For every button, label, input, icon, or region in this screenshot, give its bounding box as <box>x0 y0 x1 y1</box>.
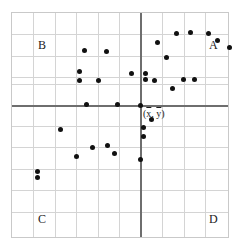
data-point <box>143 77 148 82</box>
gridline-vertical <box>33 13 34 237</box>
gridline-vertical <box>76 13 77 237</box>
data-point <box>174 31 179 36</box>
gridline-horizontal <box>12 126 228 127</box>
gridline-horizontal <box>12 56 228 57</box>
data-point <box>206 31 211 36</box>
scatter-plot-figure: ABCD (x, y) <box>0 0 239 249</box>
quadrant-label-c: C <box>38 213 46 225</box>
gridline-vertical <box>119 13 120 237</box>
gridline-vertical <box>184 13 185 237</box>
data-point <box>74 154 79 159</box>
centroid-close-paren: ) <box>161 108 164 119</box>
data-point <box>188 30 193 35</box>
horizontal-axis <box>12 105 228 107</box>
quadrant-label-a: A <box>209 39 218 51</box>
data-point <box>77 69 82 74</box>
data-point <box>104 49 109 54</box>
quadrant-label-d: D <box>209 213 218 225</box>
gridline-horizontal <box>12 34 228 35</box>
data-point <box>84 102 89 107</box>
data-point <box>227 45 232 50</box>
data-point <box>138 103 143 108</box>
data-point <box>141 134 146 139</box>
gridline-vertical <box>205 13 206 237</box>
data-point <box>112 151 117 156</box>
data-point <box>170 86 175 91</box>
data-point <box>129 71 134 76</box>
gridline-horizontal <box>12 190 228 191</box>
centroid-annotation: (x, y) <box>143 109 165 119</box>
gridline-horizontal <box>12 147 228 148</box>
data-point <box>141 125 146 130</box>
data-point <box>138 157 143 162</box>
data-point <box>35 175 40 180</box>
gridline-vertical <box>98 13 99 237</box>
data-point <box>181 77 186 82</box>
quadrant-label-b: B <box>38 39 46 51</box>
data-point <box>143 71 148 76</box>
data-point <box>192 77 197 82</box>
data-point <box>82 48 87 53</box>
data-point <box>77 78 82 83</box>
data-point <box>115 102 120 107</box>
data-point <box>96 78 101 83</box>
gridline-vertical <box>55 13 56 237</box>
gridline-horizontal <box>12 84 228 85</box>
gridline-vertical <box>162 13 163 237</box>
data-point <box>105 143 110 148</box>
gridline-horizontal <box>12 169 228 170</box>
data-point <box>164 55 169 60</box>
data-point <box>35 169 40 174</box>
data-point <box>90 145 95 150</box>
data-point <box>58 127 63 132</box>
data-point <box>155 40 160 45</box>
data-point <box>152 78 157 83</box>
plot-area: ABCD (x, y) <box>11 12 229 238</box>
